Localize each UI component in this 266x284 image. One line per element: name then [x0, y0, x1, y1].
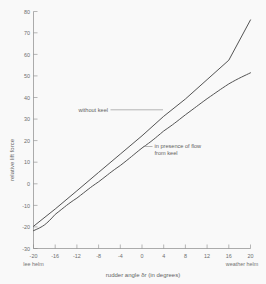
x-tick-label: 8 [184, 253, 187, 259]
annotation-without-keel: without keel [77, 107, 163, 113]
y-tick-label: 0 [27, 181, 30, 187]
x-tick-label: 12 [204, 253, 210, 259]
annotation-label: in presence of flow [155, 143, 203, 149]
x-axis-title: rudder angle δr (in degrees) [106, 272, 180, 278]
y-tick-label: 10 [24, 159, 30, 165]
annotation-label: without keel [77, 107, 108, 113]
y-tick-labels-group: -30 -20 -10 0 10 20 30 40 50 60 70 80 [22, 9, 30, 252]
x-tick-label: -8 [96, 253, 101, 259]
x-tick-labels-group: -20 -16 -12 -8 -4 0 4 8 12 16 20 [30, 253, 254, 259]
x-tick-label: -4 [118, 253, 123, 259]
x-tick-label: -12 [73, 253, 81, 259]
annotation-in-presence-of-flow: in presence of flow from keel [143, 143, 202, 156]
y-tick-label: 30 [24, 116, 30, 122]
y-ticks-group [34, 12, 38, 249]
axes-group [34, 12, 251, 249]
series-line-without-keel [34, 20, 251, 226]
y-axis-title: relative lift force [9, 138, 15, 181]
y-tick-label: -30 [22, 246, 30, 252]
y-tick-label: 70 [24, 30, 30, 36]
x-tick-label: 0 [141, 253, 144, 259]
y-tick-label: 20 [24, 138, 30, 144]
series-line-in-presence-of-flow-from-keel [34, 73, 251, 231]
weather-helm-label: weather helm [225, 261, 259, 267]
x-tick-label: 4 [162, 253, 165, 259]
y-tick-label: 40 [24, 95, 30, 101]
x-tick-label: 20 [248, 253, 254, 259]
y-tick-label: -20 [22, 224, 30, 230]
lift-force-chart: -30 -20 -10 0 10 20 30 40 50 60 70 80 [0, 0, 266, 284]
x-tick-label: 16 [226, 253, 232, 259]
x-tick-label: -16 [51, 253, 59, 259]
figure-container: -30 -20 -10 0 10 20 30 40 50 60 70 80 [0, 0, 266, 284]
y-tick-label: -10 [22, 203, 30, 209]
y-tick-label: 80 [24, 9, 30, 15]
x-tick-label: -20 [30, 253, 38, 259]
y-tick-label: 50 [24, 73, 30, 79]
x-ticks-group [34, 245, 251, 249]
annotation-label: from keel [155, 150, 178, 156]
lee-helm-label: lee helm [23, 261, 44, 267]
y-tick-label: 60 [24, 52, 30, 58]
